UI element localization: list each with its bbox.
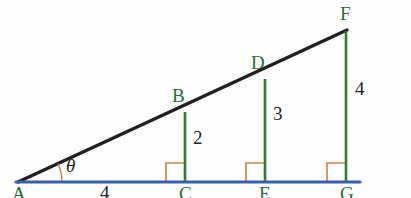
vertex-label-a: A (12, 184, 26, 198)
vertex-label-c: C (179, 184, 192, 198)
vertex-label-g: G (340, 184, 354, 198)
length-label-base-ac: 4 (100, 183, 110, 198)
right-angle-marker-e (246, 163, 264, 181)
angle-label-theta: θ (66, 156, 75, 175)
theta-angle-arc (58, 164, 62, 182)
vertex-label-f: F (340, 4, 351, 23)
vertex-label-e: E (259, 184, 271, 198)
geometry-diagram: A B C D E F G 4 2 3 4 θ (0, 0, 411, 198)
right-angle-marker-c (166, 163, 184, 181)
vertex-label-b: B (172, 86, 185, 105)
length-label-height-bc: 2 (193, 128, 203, 147)
length-label-height-fg: 4 (355, 79, 365, 98)
diagram-canvas (0, 0, 411, 198)
right-angle-marker-g (327, 163, 345, 181)
length-label-height-de: 3 (273, 104, 283, 123)
vertex-label-d: D (251, 53, 265, 72)
